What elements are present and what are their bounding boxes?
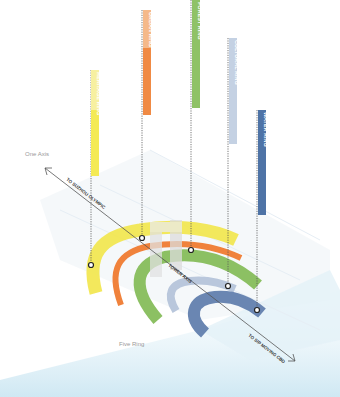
cultural-ring-label: CULTURAL RING bbox=[234, 40, 240, 85]
forest-ring-label: FOREST RING bbox=[197, 2, 203, 40]
five-ring-diagram: HERITAGE RING URBAN RING FOREST RING CUL… bbox=[0, 0, 340, 397]
water-ring-bar: WATER RING bbox=[258, 110, 269, 215]
one-axis-label: One Axis bbox=[25, 151, 49, 157]
heritage-ring-bar: HERITAGE RING bbox=[91, 70, 102, 176]
water-ring-label: WATER RING bbox=[263, 112, 269, 147]
five-ring-label: Five Ring bbox=[119, 341, 144, 347]
site-base-map bbox=[0, 150, 340, 397]
heritage-ring-label: HERITAGE RING bbox=[96, 72, 102, 115]
cultural-ring-bar: CULTURAL RING bbox=[229, 38, 240, 144]
urban-ring-bar: URBAN RING bbox=[143, 10, 154, 115]
forest-ring-bar: FOREST RING bbox=[192, 0, 203, 108]
urban-ring-label: URBAN RING bbox=[148, 12, 154, 47]
